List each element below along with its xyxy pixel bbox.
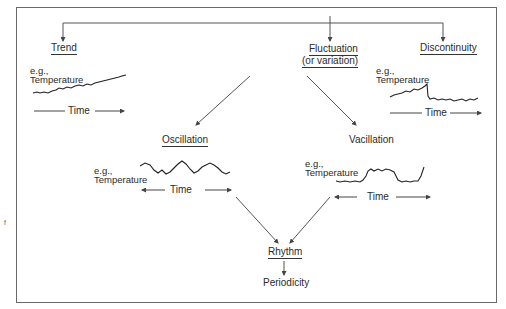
arrow-vacillation-to-rhythm xyxy=(290,197,330,243)
node-trend: Trend xyxy=(51,42,77,55)
oscillation-variable-label: Temperature xyxy=(94,175,147,185)
node-periodicity: Periodicity xyxy=(263,277,309,288)
oscillation-sparkline xyxy=(140,161,230,174)
node-discontinuity: Discontinuity xyxy=(420,42,477,55)
arrow-oscillation-to-rhythm xyxy=(236,197,278,243)
node-vacillation: Vacillation xyxy=(349,134,394,145)
discontinuity-variable-label: Temperature xyxy=(376,75,429,85)
node-rhythm: Rhythm xyxy=(268,246,302,259)
arrow-to-oscillation xyxy=(196,76,250,125)
diagram-canvas: f xyxy=(0,0,506,309)
oscillation-time-label: Time xyxy=(168,185,194,195)
node-oscillation: Oscillation xyxy=(162,134,208,147)
trend-variable-label: Temperature xyxy=(30,75,83,85)
trend-time-label: Time xyxy=(66,106,92,116)
discontinuity-time-label: Time xyxy=(423,108,449,118)
arrow-to-vacillation xyxy=(307,76,356,125)
vacillation-variable-label: Temperature xyxy=(305,168,358,178)
vacillation-time-label: Time xyxy=(365,192,391,202)
discontinuity-sparkline xyxy=(390,84,478,101)
node-fluctuation-subtitle: (or variation) xyxy=(302,55,358,68)
